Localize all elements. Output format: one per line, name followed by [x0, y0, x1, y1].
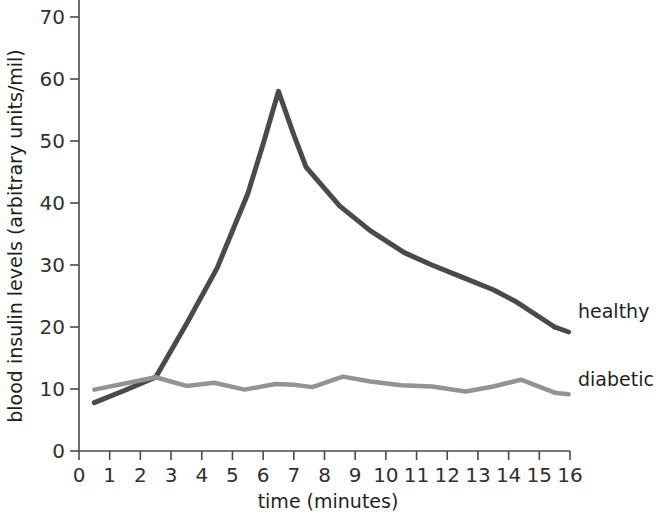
x-tick-label: 12	[435, 463, 460, 487]
y-tick-label: 40	[40, 191, 65, 215]
y-tick-group: 010203040506070	[40, 5, 79, 463]
y-tick-label: 0	[52, 439, 65, 463]
x-tick-label: 13	[465, 463, 490, 487]
x-tick-label: 15	[527, 463, 552, 487]
x-tick-label: 0	[73, 463, 86, 487]
y-tick-label: 30	[40, 253, 65, 277]
x-tick-label: 2	[134, 463, 147, 487]
y-tick-label: 70	[40, 5, 65, 29]
series-label-healthy: healthy	[578, 300, 649, 322]
insulin-line-chart: 010203040506070 012345678910111213141516…	[0, 0, 656, 517]
x-axis-title: time (minutes)	[258, 490, 399, 512]
y-tick-label: 60	[40, 67, 65, 91]
series-lead-healthy	[555, 327, 569, 332]
x-tick-label: 11	[404, 463, 429, 487]
x-tick-label: 9	[349, 463, 362, 487]
y-axis: 010203040506070	[40, 0, 79, 463]
y-tick-label: 20	[40, 315, 65, 339]
series-group	[94, 91, 568, 402]
y-axis-title: blood insulin levels (arbitrary units/mi…	[4, 49, 26, 423]
x-tick-label: 8	[318, 463, 331, 487]
x-tick-label: 14	[496, 463, 521, 487]
x-axis: 012345678910111213141516	[73, 451, 583, 487]
x-tick-label: 1	[103, 463, 116, 487]
series-lead-diabetic	[555, 393, 569, 395]
series-label-diabetic: diabetic	[578, 368, 654, 390]
x-tick-group: 012345678910111213141516	[73, 451, 583, 487]
chart-canvas: 010203040506070 012345678910111213141516…	[0, 0, 656, 517]
series-line-healthy	[94, 91, 554, 402]
x-tick-label: 4	[195, 463, 208, 487]
series-line-diabetic	[94, 377, 554, 393]
x-tick-label: 7	[287, 463, 300, 487]
x-tick-label: 16	[557, 463, 582, 487]
x-tick-label: 5	[226, 463, 239, 487]
x-tick-label: 3	[165, 463, 178, 487]
x-tick-label: 6	[257, 463, 270, 487]
y-tick-label: 50	[40, 129, 65, 153]
y-tick-label: 10	[40, 377, 65, 401]
x-tick-label: 10	[373, 463, 398, 487]
